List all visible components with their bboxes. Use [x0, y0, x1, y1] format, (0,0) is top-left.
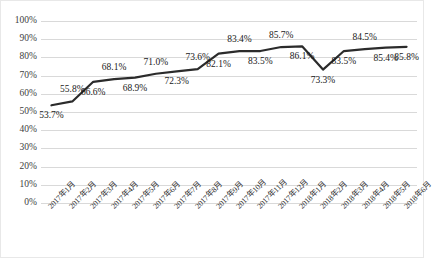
y-axis-tick-label: 90% [1, 34, 37, 44]
data-point-label: 85.8% [394, 53, 419, 63]
data-point-label: 72.3% [164, 77, 189, 87]
data-point-label: 83.5% [248, 57, 273, 67]
data-point-label: 82.1% [206, 60, 231, 70]
data-point-label: 66.6% [81, 88, 106, 98]
y-axis-tick-label: 100% [1, 16, 37, 26]
data-point-label: 84.5% [352, 33, 377, 43]
y-axis-tick-label: 30% [1, 144, 37, 154]
y-axis-tick-label: 50% [1, 107, 37, 117]
data-point-label: 86.1% [290, 52, 315, 62]
data-point-label: 83.4% [227, 35, 252, 45]
data-point-label: 85.7% [269, 31, 294, 41]
series-line [41, 21, 417, 203]
y-axis-tick-label: 80% [1, 53, 37, 63]
data-point-label: 83.5% [332, 57, 357, 67]
y-axis-tick-label: 70% [1, 71, 37, 81]
y-axis-tick-label: 60% [1, 89, 37, 99]
y-axis-tick-label: 20% [1, 162, 37, 172]
data-point-label: 68.1% [102, 63, 127, 73]
data-point-label: 53.7% [39, 111, 64, 121]
data-point-label: 71.0% [144, 58, 169, 68]
plot-area: 53.7%55.8%66.6%68.1%68.9%71.0%72.3%73.6%… [41, 21, 417, 203]
x-axis-ticks: 2017年1月2017年2月2017年3月2017年4月2017年5月2017年… [41, 205, 417, 258]
y-axis-tick-label: 0% [1, 198, 37, 208]
data-point-label: 73.3% [311, 76, 336, 86]
data-point-label: 68.9% [123, 84, 148, 94]
y-axis-tick-label: 40% [1, 125, 37, 135]
y-axis-tick-label: 10% [1, 180, 37, 190]
